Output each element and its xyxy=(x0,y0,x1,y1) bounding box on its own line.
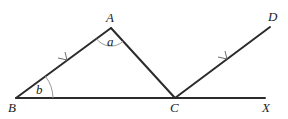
angle-label-b: b xyxy=(36,82,43,97)
angle-label-a: a xyxy=(107,34,114,49)
segment-ac xyxy=(111,28,175,98)
label-x-point: X xyxy=(261,100,271,115)
angle-arc-b xyxy=(46,76,54,98)
segment-cd xyxy=(175,27,270,98)
label-d-vertex: D xyxy=(267,9,278,24)
parallel-arrow-cd xyxy=(218,51,227,59)
label-b-vertex: B xyxy=(8,100,16,115)
label-c-vertex: C xyxy=(170,100,179,115)
geometry-diagram: A B C D X a b xyxy=(0,0,288,119)
segment-ab xyxy=(16,28,111,98)
parallel-arrow-ab xyxy=(58,52,67,60)
label-a-vertex: A xyxy=(105,10,114,25)
